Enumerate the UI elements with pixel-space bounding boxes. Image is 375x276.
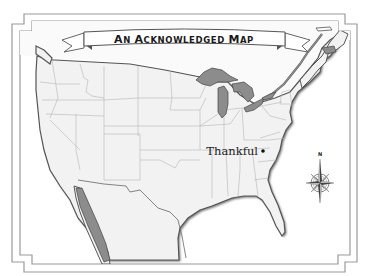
lake-michigan [218,86,228,118]
location-label: Thankful [206,144,258,158]
map-title: AN ACKNOWLEDGED MAP [114,33,254,46]
north-label: N [318,151,322,157]
acknowledged-map: AN ACKNOWLEDGED MAP Thankful N [0,0,375,276]
location-dot-icon [261,149,265,153]
location-marker-thankful[interactable]: Thankful [206,144,264,158]
